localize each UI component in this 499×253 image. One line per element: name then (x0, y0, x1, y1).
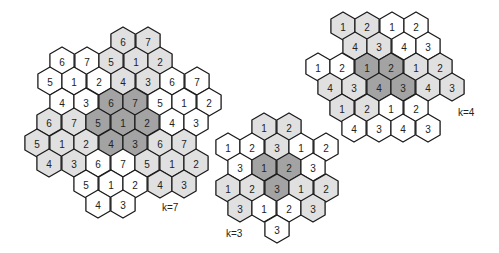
hex-cell: 3 (228, 194, 252, 222)
hex-cell-value: 3 (71, 159, 77, 170)
hex-cell-value: 2 (206, 98, 212, 109)
hex-cell-value: 1 (298, 143, 304, 154)
hex-cell-value: 1 (120, 118, 126, 129)
hex-cell-value: 2 (364, 22, 370, 33)
hex-cell-value: 4 (352, 42, 358, 53)
hex-cell: 3 (416, 114, 440, 142)
hex-cell-value: 4 (401, 42, 407, 53)
hex-cell: 3 (440, 73, 464, 101)
hex-cell-value: 1 (315, 63, 321, 74)
hex-cell-value: 6 (157, 139, 163, 150)
hex-cell-value: 1 (340, 22, 346, 33)
hex-cell: 3 (111, 190, 135, 218)
hex-cell-value: 6 (108, 98, 114, 109)
hex-cell-value: 2 (286, 204, 292, 215)
hex-cluster-diagram: 6767512512436743675126751243512436743675… (0, 0, 499, 253)
hex-cell-value: 4 (120, 77, 126, 88)
hex-cell-value: 5 (108, 57, 114, 68)
hex-cell-value: 2 (413, 22, 419, 33)
hex-cell-value: 1 (133, 57, 139, 68)
hex-cell-value: 6 (46, 118, 52, 129)
hex-cell-value: 1 (388, 104, 394, 115)
hex-cell-value: 3 (193, 118, 199, 129)
hex-cell-value: 7 (120, 159, 126, 170)
hex-cell-value: 5 (144, 159, 150, 170)
hex-cell-value: 3 (132, 139, 138, 150)
hex-cell-value: 2 (286, 163, 292, 174)
hex-cell: 3 (172, 170, 196, 198)
cluster-label-k3: k=3 (226, 228, 242, 239)
hex-cell-value: 5 (83, 180, 89, 191)
hex-cell-value: 5 (47, 77, 53, 88)
hexagon-grid: 6767512512436743675126751243512436743675… (0, 0, 499, 253)
hex-cell-value: 3 (120, 200, 126, 211)
hex-cell-value: 3 (274, 184, 280, 195)
hex-cell-value: 3 (425, 124, 431, 135)
hex-cell-value: 4 (169, 118, 175, 129)
hex-cell-value: 1 (225, 184, 231, 195)
cluster-k4: 1212434312121243434312124343 (306, 12, 464, 142)
hex-cell-value: 4 (46, 159, 52, 170)
hex-cell-value: 3 (351, 83, 357, 94)
hex-cell-value: 7 (71, 118, 77, 129)
hex-cell-value: 3 (376, 42, 382, 53)
hex-cell: 4 (391, 114, 415, 142)
hex-cell-value: 4 (108, 139, 114, 150)
hex-cell-value: 1 (389, 22, 395, 33)
hex-cell: 3 (301, 194, 325, 222)
hex-cell-value: 2 (286, 123, 292, 134)
hex-cell-value: 1 (364, 63, 370, 74)
hex-cell-value: 1 (71, 77, 77, 88)
hex-cell-value: 1 (261, 123, 267, 134)
hex-cell-value: 2 (249, 184, 255, 195)
hex-cell-value: 4 (95, 200, 101, 211)
hex-cell-value: 2 (157, 57, 163, 68)
hex-cell-value: 3 (237, 163, 243, 174)
hex-cell-value: 7 (194, 77, 200, 88)
hex-cell-value: 2 (193, 159, 199, 170)
hex-cell-value: 4 (425, 83, 431, 94)
hex-cell: 3 (265, 215, 289, 243)
hex-cell-value: 7 (132, 98, 138, 109)
hex-cell-value: 4 (400, 124, 406, 135)
hex-cell-value: 2 (323, 143, 329, 154)
hex-cell-value: 1 (169, 159, 175, 170)
hex-cell-value: 4 (376, 83, 382, 94)
hex-cell-value: 5 (157, 98, 163, 109)
hex-cell-value: 1 (261, 163, 267, 174)
hex-cell-value: 1 (413, 63, 419, 74)
hex-cell-value: 2 (96, 77, 102, 88)
hex-cell-value: 2 (132, 180, 138, 191)
hex-cell-value: 6 (95, 159, 101, 170)
hex-cell-value: 3 (449, 83, 455, 94)
hex-cell-value: 7 (84, 57, 90, 68)
hex-cell-value: 2 (437, 63, 443, 74)
hex-cell-value: 3 (310, 204, 316, 215)
hex-cell-value: 1 (225, 143, 231, 154)
hex-cell-value: 2 (339, 63, 345, 74)
hex-cell-value: 2 (144, 118, 150, 129)
cluster-k7: 6767512512436743675126751243512436743675… (25, 27, 221, 218)
hex-cell-value: 3 (274, 225, 280, 236)
hex-cell: 3 (367, 114, 391, 142)
hex-cell-value: 3 (83, 98, 89, 109)
hex-cell: 4 (37, 149, 61, 177)
hex-cell-value: 3 (400, 83, 406, 94)
hex-cell-value: 2 (388, 63, 394, 74)
hex-cell-value: 7 (181, 139, 187, 150)
hex-cell-value: 6 (59, 57, 65, 68)
hex-cell-value: 3 (425, 42, 431, 53)
hex-cell: 4 (148, 170, 172, 198)
hex-cell-value: 4 (157, 180, 163, 191)
hex-cell-value: 3 (181, 180, 187, 191)
hex-cell-value: 1 (261, 204, 267, 215)
hex-cell-value: 3 (274, 143, 280, 154)
hex-cell-value: 1 (108, 180, 114, 191)
hex-cell-value: 2 (323, 184, 329, 195)
cluster-k3: 121231231231231231233 (216, 113, 338, 243)
hex-cell-value: 7 (145, 37, 151, 48)
hex-cell-value: 2 (413, 104, 419, 115)
hex-cell-value: 6 (169, 77, 175, 88)
hex-cell-value: 3 (145, 77, 151, 88)
hex-cell-value: 1 (298, 184, 304, 195)
